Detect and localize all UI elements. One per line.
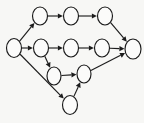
edge-source-to-top-1 <box>20 27 32 41</box>
edge-lower-1-to-lower-2-arrowhead-icon <box>71 72 76 77</box>
node-middle-2 <box>64 39 79 57</box>
edge-middle-1-to-lower-1 <box>45 56 48 63</box>
edge-top-1-to-top-2-arrowhead-icon <box>58 13 63 18</box>
node-middle-3 <box>95 39 110 57</box>
edge-middle-1-to-middle-2-arrowhead-icon <box>58 45 63 50</box>
edge-lower-2-to-sink <box>91 55 121 70</box>
node-source <box>7 39 22 58</box>
edge-lower-1-to-lower-2 <box>61 75 71 76</box>
edge-top-2-to-top-3-arrowhead-icon <box>92 13 97 18</box>
edge-middle-2-to-middle-3-arrowhead-icon <box>89 45 94 50</box>
node-top-3 <box>98 7 113 25</box>
node-top-2 <box>64 7 79 25</box>
graph-diagram-canvas <box>0 0 144 123</box>
node-lower-2 <box>77 65 91 83</box>
node-bottom <box>63 96 78 115</box>
edge-middle-3-to-sink-arrowhead-icon <box>119 46 124 51</box>
node-top-1 <box>33 7 48 25</box>
node-lower-1 <box>47 67 61 85</box>
edge-bottom-to-lower-2 <box>74 87 78 96</box>
edge-source-to-middle-1-arrowhead-icon <box>28 45 33 50</box>
node-sink <box>125 39 141 59</box>
edge-top-3-to-sink <box>111 23 124 38</box>
graph-svg-root <box>0 0 144 123</box>
node-middle-1 <box>34 39 49 57</box>
